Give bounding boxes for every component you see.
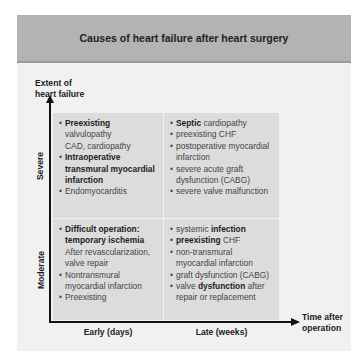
item-bold: infection	[211, 224, 246, 234]
x-axis-label: Time after operation	[302, 312, 343, 334]
y-axis-label: Extent of heart failure	[35, 78, 84, 100]
item-text: severe acute graft dysfunction (CABG)	[176, 164, 250, 185]
list-item: Preexisting valvulopathy CAD, cardiopath…	[59, 118, 157, 152]
y-axis-label-line1: Extent of	[35, 78, 84, 89]
item-bold: Intraoperative transmural myocardial inf…	[65, 152, 155, 185]
item-bold: Preexisting	[65, 118, 110, 128]
diagram-title: Causes of heart failure after heart surg…	[80, 32, 289, 44]
cell-moderate-early: Difficult operation: temporary ischemia …	[53, 219, 163, 320]
title-bar: Causes of heart failure after heart surg…	[17, 15, 351, 63]
row-label-severe: Severe	[35, 151, 45, 181]
item-bold: Difficult operation: temporary ischemia	[65, 224, 144, 245]
item-sub: After revascularization, valve repair	[65, 247, 157, 270]
item-text: CHF	[221, 235, 241, 245]
x-axis-label-line2: operation	[302, 323, 343, 334]
list-item: non-transmural myocardial infarction	[170, 247, 273, 270]
column-label-early: Early (days)	[53, 327, 163, 337]
item-text: severe valve malfunction	[176, 186, 268, 196]
list-item: preexisting CHF	[170, 129, 273, 140]
y-axis-line	[49, 101, 51, 323]
x-axis-arrow-icon	[291, 318, 300, 326]
diagram-panel: Causes of heart failure after heart surg…	[17, 15, 351, 351]
item-text: valve	[176, 281, 198, 291]
list-item: severe valve malfunction	[170, 186, 273, 197]
list-item: systemic infection	[170, 224, 273, 235]
x-axis-label-line1: Time after	[302, 312, 343, 323]
item-bold: Septic	[176, 118, 201, 128]
item-text: cardiopathy	[201, 118, 247, 128]
item-text: Preexisting	[65, 292, 106, 302]
cell-severe-late: Septic cardiopathy preexisting CHF posto…	[164, 113, 279, 218]
list-item: Difficult operation: temporary ischemia …	[59, 224, 157, 270]
list-item: Endomyocarditis	[59, 186, 157, 197]
item-text: non-transmural myocardial infarction	[176, 247, 253, 268]
item-text: Nontransmural myocardial infarction	[65, 270, 142, 291]
item-sub: CAD, cardiopathy	[65, 141, 157, 152]
list-item: Nontransmural myocardial infarction	[59, 270, 157, 293]
x-axis-line	[49, 321, 293, 323]
list-item: valve dysfunction after repair or replac…	[170, 281, 273, 304]
item-text: systemic	[176, 224, 211, 234]
item-sub: valvulopathy	[65, 129, 157, 140]
list-item: graft dysfunction (CABG)	[170, 270, 273, 281]
row-label-moderate: Moderate	[36, 248, 46, 292]
item-text: Endomyocarditis	[65, 186, 127, 196]
list-item: Preexisting	[59, 292, 157, 303]
item-text: preexisting CHF	[176, 129, 236, 139]
item-text: graft dysfunction (CABG)	[176, 270, 269, 280]
list-item: preexisting CHF	[170, 235, 273, 246]
list-item: Septic cardiopathy	[170, 118, 273, 129]
cell-moderate-late: systemic infection preexisting CHF non-t…	[164, 219, 279, 320]
column-label-late: Late (weeks)	[164, 327, 279, 337]
item-bold: dysfunction	[198, 281, 245, 291]
item-bold: preexisting	[176, 235, 221, 245]
list-item: severe acute graft dysfunction (CABG)	[170, 164, 273, 187]
y-axis-label-line2: heart failure	[35, 89, 84, 100]
item-text: postoperative myocardial infarction	[176, 141, 269, 162]
list-item: Intraoperative transmural myocardial inf…	[59, 152, 157, 186]
cell-severe-early: Preexisting valvulopathy CAD, cardiopath…	[53, 113, 163, 218]
list-item: postoperative myocardial infarction	[170, 141, 273, 164]
